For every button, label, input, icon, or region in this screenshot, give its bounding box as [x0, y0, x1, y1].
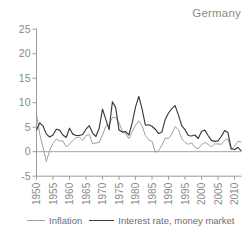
x-tick-label: 2010 — [229, 182, 240, 205]
inflation-line-swatch-icon — [27, 220, 45, 222]
x-tick-label: 1960 — [64, 182, 75, 205]
y-tick-label: 0 — [25, 145, 31, 157]
x-tick-label: 1985 — [147, 182, 158, 205]
y-tick-label: 20 — [19, 47, 31, 59]
x-tick-label: 1980 — [130, 182, 141, 205]
x-tick-label: 1950 — [31, 182, 42, 205]
y-tick-label: -5 — [21, 170, 30, 182]
y-tick-label: 10 — [19, 96, 31, 108]
x-tick-label: 1955 — [48, 182, 59, 205]
x-tick-label: 1990 — [163, 182, 174, 205]
y-tick-label: 15 — [19, 72, 31, 84]
legend-label-inflation: Inflation — [49, 215, 82, 226]
x-tick-label: 2005 — [213, 182, 224, 205]
y-tick-label: 5 — [25, 121, 31, 133]
legend-label-interest-rate: Interest rate, money market — [118, 215, 234, 226]
x-tick-label: 1965 — [81, 182, 92, 205]
x-tick-label: 1970 — [97, 182, 108, 205]
legend-item-interest-rate: Interest rate, money market — [89, 215, 234, 226]
legend-item-inflation: Inflation — [27, 215, 82, 226]
interest-rate-line — [37, 96, 242, 150]
inflation-line — [37, 114, 242, 162]
chart-legend: Inflation Interest rate, money market — [27, 215, 234, 226]
x-tick-label: 2000 — [196, 182, 207, 205]
y-tick-label: 25 — [19, 23, 31, 35]
chart-panel: 2520151050-51950195519601965197019751980… — [0, 0, 249, 238]
x-tick-label: 1995 — [180, 182, 191, 205]
line-chart: 2520151050-51950195519601965197019751980… — [0, 0, 249, 238]
x-tick-label: 1975 — [114, 182, 125, 205]
panel-title: Germany — [192, 7, 241, 19]
interest-rate-line-swatch-icon — [89, 220, 114, 222]
